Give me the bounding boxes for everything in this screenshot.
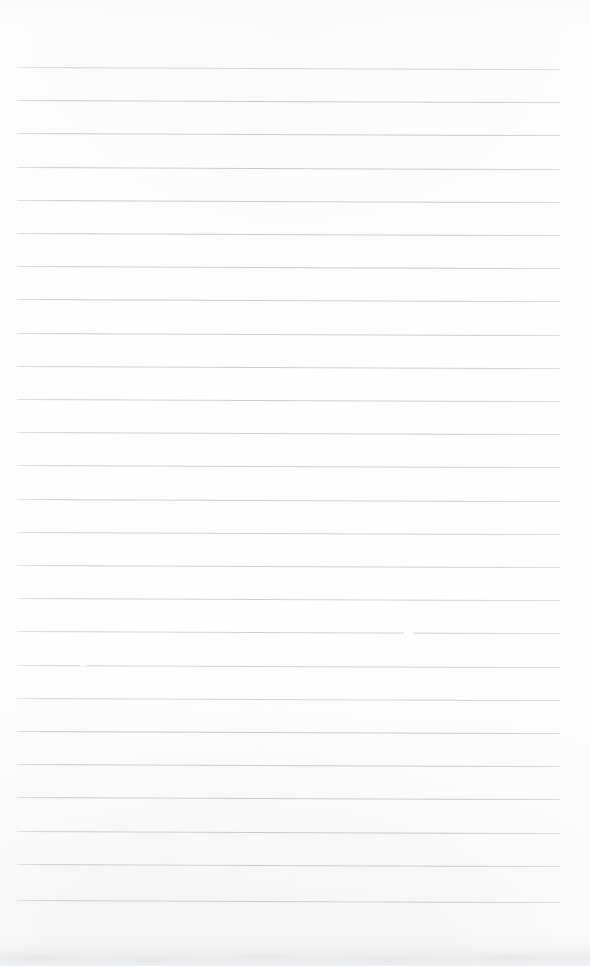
bottom-scan-smudge (0, 932, 590, 966)
ruled-line (17, 399, 560, 402)
bottom-scan-mottle (0, 936, 590, 966)
ruled-line (17, 299, 560, 302)
ruled-line (17, 499, 560, 502)
ruled-line (17, 665, 560, 668)
ruled-line-dropout (80, 664, 87, 666)
ruled-line (17, 900, 560, 903)
paper-surface (0, 0, 590, 966)
ruled-line (17, 797, 560, 800)
ruled-line (17, 432, 560, 435)
ruled-line (17, 465, 560, 468)
ruled-line (17, 100, 560, 103)
ruled-line (17, 698, 560, 701)
ruled-line (17, 333, 560, 336)
ruled-line (17, 133, 560, 136)
scanned-page (0, 0, 590, 966)
ruled-line (17, 631, 560, 634)
ruled-line (17, 532, 560, 535)
ruled-line (17, 200, 560, 203)
ruled-line (17, 764, 560, 767)
ruled-line (17, 233, 560, 236)
ruled-line (17, 266, 560, 269)
ruled-line (17, 565, 560, 568)
ruled-line (17, 598, 560, 601)
ruled-line-dropout (404, 632, 413, 634)
ruled-line (17, 731, 560, 734)
ruled-line (17, 366, 560, 369)
ruled-line (17, 864, 560, 867)
ruled-line (17, 831, 560, 834)
ruled-line (17, 167, 560, 170)
ruled-line (17, 67, 560, 70)
top-scan-tone (0, 0, 590, 26)
